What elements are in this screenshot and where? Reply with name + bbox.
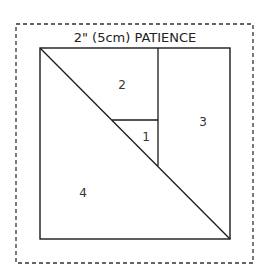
block-title: 2" (5cm) PATIENCE [74,30,197,45]
patience-block-diagram: 2" (5cm) PATIENCE 1 2 3 4 [0,0,268,274]
piece-label-3: 3 [199,115,207,129]
piece-label-1: 1 [142,130,150,144]
piece-label-4: 4 [79,186,87,200]
piece-label-2: 2 [118,78,126,92]
diagonal-seam [40,48,230,239]
